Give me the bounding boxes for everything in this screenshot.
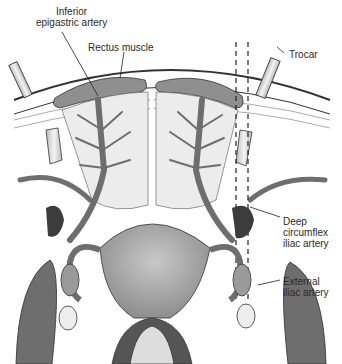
label-rectus-muscle: Rectus muscle [88,42,154,53]
label-trocar: Trocar [289,49,318,60]
label-external-iliac-artery: External iliac artery [283,276,329,298]
label-inferior-epigastric-artery: Inferior epigastric artery [36,6,107,28]
label-deep-circumflex-iliac-artery: Deep circumflex iliac artery [283,216,329,249]
deep-circumflex-iliac-artery [232,206,254,238]
anterior-abdominal-muscles [62,92,238,210]
uterus [59,224,255,364]
